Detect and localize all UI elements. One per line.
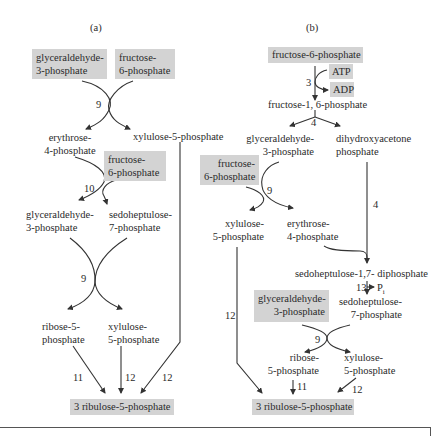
a-enzyme-12-right: 12: [162, 372, 173, 384]
b-adp-box: ADP: [330, 82, 354, 97]
bottom-divider: [0, 427, 431, 428]
a-product-ribulose-5-phosphate: 3 ribulose-5-phosphate: [70, 399, 174, 415]
a-input-f6p-line2: 6-phosphate: [119, 64, 171, 77]
a-xylulose-5-phosphate-bottom: xylulose- 5-phosphate: [108, 320, 159, 346]
b-x5p-a-line1: xylulose-: [208, 217, 264, 230]
a-input-g3p-box: glyceraldehyde- 3-phosphate: [32, 49, 107, 79]
b-e4p-line1: erythrose-: [287, 217, 338, 230]
b-g3p2-line2: 3-phosphate: [258, 305, 325, 318]
b-enzyme-12-right: 12: [352, 384, 363, 396]
b-s7p-line2: 7-phosphate: [332, 308, 402, 321]
b-r5p-line2: 5-phosphate: [259, 364, 319, 377]
a-input-f6p-box: fructose- 6-phosphate: [115, 49, 175, 79]
b-s7p-line1: sedoheptulose-: [332, 295, 402, 308]
b-enzyme-11: 11: [297, 381, 307, 393]
b-f6p2-line1: fructose-: [204, 157, 255, 170]
a-enzyme-9-first: 9: [96, 99, 101, 111]
b-fructose-1-6-phosphate: fructose-1, 6-phosphate: [268, 98, 367, 111]
b-product-ribulose-5-phosphate: 3 ribulose-5-phosphate: [252, 399, 354, 415]
b-x5p-b-line1: xylulose-: [344, 351, 395, 364]
bottom-divider-edge: [430, 427, 431, 436]
a-x5p-line1: xylulose-: [108, 320, 159, 333]
b-xylulose-5-phosphate-top: xylulose- 5-phosphate: [208, 217, 264, 243]
a-fructose-6-phosphate-box: fructose- 6-phosphate: [104, 151, 166, 181]
b-sedoheptulose-1-7-diphosphate: sedoheptulose-1,7- diphosphate: [295, 267, 428, 280]
a-input-f6p-line1: fructose-: [119, 51, 171, 64]
panel-a-label: (a): [90, 21, 102, 34]
b-enzyme-4-split: 4: [311, 117, 316, 129]
a-x5p-line2: 5-phosphate: [108, 333, 159, 346]
b-enzyme-9-second: 9: [315, 334, 320, 346]
a-glyceraldehyde-3-phosphate: glyceraldehyde- 3-phosphate: [26, 208, 94, 234]
a-enzyme-9-second: 9: [81, 273, 86, 285]
a-ribose-5-phosphate: ribose-5- phosphate: [42, 320, 85, 346]
a-sedoheptulose-7-phosphate: sedoheptulose- 7-phosphate: [109, 208, 172, 234]
b-input-fructose-6-phosphate: fructose-6-phosphate: [268, 47, 363, 63]
a-s7p-line1: sedoheptulose-: [109, 208, 172, 221]
a-f6p2-line1: fructose-: [108, 153, 162, 166]
a-g3p-line2: 3-phosphate: [26, 221, 94, 234]
a-enzyme-10: 10: [84, 183, 95, 195]
a-xylulose-5-phosphate-top: xylulose-5-phosphate: [133, 130, 223, 143]
b-g3p-line1: glyceraldehyde-: [244, 132, 314, 145]
b-sedoheptulose-7-phosphate: sedoheptulose- 7-phosphate: [332, 295, 402, 321]
b-r5p-line1: ribose-: [259, 351, 319, 364]
b-atp-box: ATP: [329, 64, 353, 79]
a-enzyme-11: 11: [73, 372, 83, 384]
b-dhap-line2: phosphate: [336, 145, 411, 158]
a-erythrose-line1: erythrose-: [40, 131, 100, 144]
b-enzyme-12-left: 12: [225, 310, 236, 322]
b-erythrose-4-phosphate: erythrose- 4-phosphate: [287, 217, 338, 243]
b-x5p-b-line2: 5-phosphate: [344, 364, 395, 377]
b-enzyme-13: 13: [356, 282, 367, 294]
b-dihydroxyacetone-phosphate: dihydroxyacetone phosphate: [336, 132, 411, 158]
b-e4p-line2: 4-phosphate: [287, 230, 338, 243]
a-r5p-line2: phosphate: [42, 333, 85, 346]
a-g3p-line1: glyceraldehyde-: [26, 208, 94, 221]
a-r5p-line1: ribose-5-: [42, 320, 85, 333]
b-dhap-line1: dihydroxyacetone: [336, 132, 411, 145]
a-erythrose-4-phosphate: erythrose- 4-phosphate: [40, 131, 100, 157]
b-glyceraldehyde-3-phosphate-box: glyceraldehyde- 3-phosphate: [254, 290, 329, 322]
b-g3p2-line1: glyceraldehyde-: [258, 292, 325, 305]
b-x5p-a-line2: 5-phosphate: [208, 230, 264, 243]
b-enzyme-3: 3: [306, 77, 311, 89]
b-f6p2-line2: 6-phosphate: [204, 170, 255, 183]
b-fructose-6-phosphate-box: fructose- 6-phosphate: [200, 155, 259, 185]
a-enzyme-12-middle: 12: [125, 372, 136, 384]
a-f6p2-line2: 6-phosphate: [108, 166, 162, 179]
b-enzyme-9-first: 9: [267, 185, 272, 197]
a-input-g3p-line1: glyceraldehyde-: [36, 51, 103, 64]
panel-b-label: (b): [306, 21, 318, 34]
a-input-g3p-line2: 3-phosphate: [36, 64, 103, 77]
a-s7p-line2: 7-phosphate: [109, 221, 172, 234]
b-xylulose-5-phosphate-bottom: xylulose- 5-phosphate: [344, 351, 395, 377]
a-erythrose-line2: 4-phosphate: [40, 144, 100, 157]
b-enzyme-4-vertical: 4: [373, 199, 378, 211]
b-ribose-5-phosphate: ribose- 5-phosphate: [259, 351, 319, 377]
